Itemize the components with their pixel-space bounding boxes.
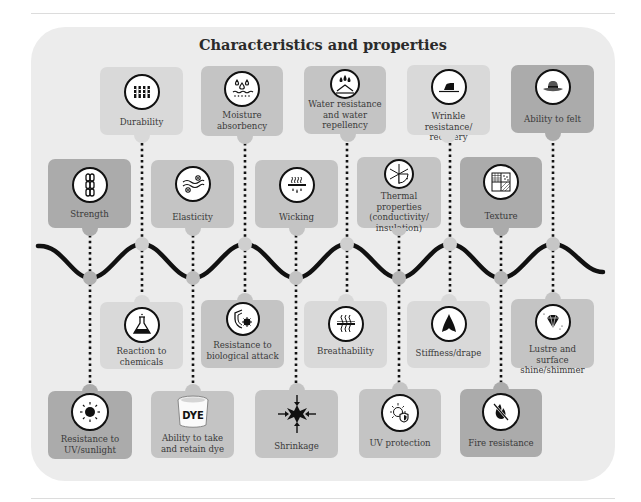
wicking-icon [279, 167, 315, 203]
property-label: Reaction to chemicals [100, 346, 183, 367]
property-card-moisture-absorbency: Moisture absorbency [201, 66, 283, 136]
property-label: Ability to take and retain dye [151, 433, 234, 454]
sun-icon [71, 393, 109, 431]
drape-icon [431, 306, 467, 342]
property-label: Thermal properties (conductivity/ insula… [357, 191, 441, 233]
property-label: Strength [48, 209, 131, 220]
property-card-wrinkle-resistance: Wrinkle resistance/ recovery [407, 65, 490, 135]
property-label: Shrinkage [255, 441, 338, 452]
dye-text: DYE [182, 410, 204, 421]
no-fire-icon [482, 393, 520, 431]
property-card-durability: Durability [100, 67, 183, 135]
property-label: Durability [100, 117, 183, 128]
property-label: Resistance to UV/sunlight [48, 434, 132, 455]
property-card-ability-to-felt: Ability to felt [511, 65, 594, 133]
dye-bucket-icon: DYE [175, 395, 211, 429]
property-card-breathability: Breathability [304, 301, 387, 368]
property-card-uv-resistance: Resistance to UV/sunlight [48, 391, 132, 459]
property-card-dye: DYE Ability to take and retain dye [151, 391, 234, 458]
sun-shield-icon [381, 394, 419, 432]
felt-hat-icon [535, 69, 571, 105]
property-label: Stiffness/drape [407, 348, 490, 359]
property-card-elasticity: Elasticity [151, 160, 234, 228]
property-card-strength: Strength [48, 159, 131, 228]
elastic-waves-icon [175, 166, 211, 202]
property-card-thermal-properties: Thermal properties (conductivity/ insula… [357, 157, 441, 228]
property-card-water-resistance: Water resistance and water repellency [304, 66, 386, 134]
property-label: Moisture absorbency [201, 110, 283, 131]
flask-icon [124, 307, 160, 343]
property-label: UV protection [359, 438, 441, 449]
property-card-fire-resistance: Fire resistance [460, 389, 542, 457]
shield-virus-icon [226, 302, 260, 336]
property-card-stiffness-drape: Stiffness/drape [407, 301, 490, 368]
property-label: Water resistance and water repellency [304, 99, 386, 131]
property-label: Breathability [304, 346, 387, 357]
property-card-reaction-to-chemicals: Reaction to chemicals [100, 302, 183, 369]
property-label: Fire resistance [460, 438, 542, 449]
property-card-lustre: Lustre and surface shine/shimmer [511, 299, 594, 368]
breathability-icon [328, 306, 364, 342]
water-drops-icon [224, 71, 260, 107]
property-label: Wicking [255, 212, 338, 223]
property-card-shrinkage: Shrinkage [255, 390, 338, 458]
wave-line [38, 244, 603, 278]
fibres-icon [124, 74, 160, 110]
property-label: Texture [460, 211, 542, 222]
property-card-wicking: Wicking [255, 160, 338, 228]
property-label: Resistance to biological attack [201, 340, 284, 361]
shrink-arrows-icon [276, 393, 318, 435]
thermal-snowflake-sun-icon [384, 159, 414, 189]
property-card-biological-attack: Resistance to biological attack [201, 300, 284, 368]
iron-icon [431, 69, 467, 105]
property-card-uv-protection: UV protection [359, 389, 441, 458]
property-card-texture: Texture [460, 157, 542, 228]
property-label: Elasticity [151, 212, 234, 223]
diamond-icon [535, 304, 571, 340]
chain-icon [72, 167, 108, 203]
property-label: Lustre and surface shine/shimmer [511, 344, 594, 376]
property-label: Ability to felt [511, 114, 594, 125]
water-repel-icon [330, 69, 360, 99]
texture-swatch-icon [483, 164, 519, 200]
